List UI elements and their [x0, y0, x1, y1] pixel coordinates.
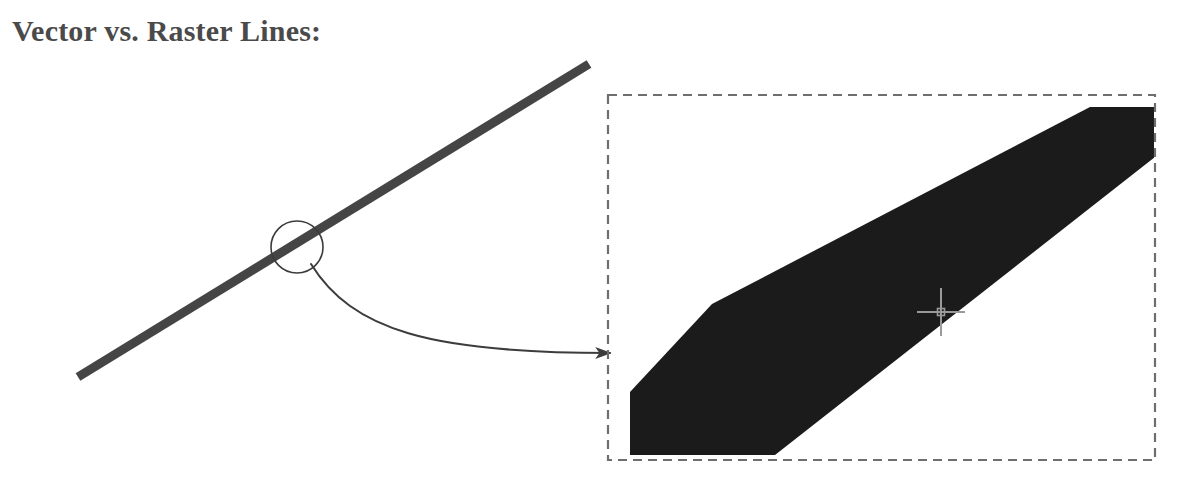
raster-zoom-svg: [0, 0, 1189, 487]
figure-canvas: Vector vs. Raster Lines:: [0, 0, 1189, 487]
raster-zoom-panel: [0, 0, 1189, 487]
raster-line-band: [630, 107, 1155, 455]
